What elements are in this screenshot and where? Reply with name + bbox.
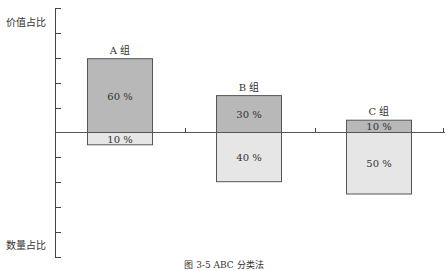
- quantity-label: 50 %: [366, 158, 391, 169]
- category-label: C 组: [369, 105, 390, 117]
- y-axis-label-top: 价值占比: [6, 14, 46, 29]
- category-label: B 组: [239, 81, 260, 93]
- value-label: 10 %: [366, 121, 391, 132]
- category-label: A 组: [109, 44, 130, 56]
- value-label: 60 %: [107, 91, 132, 102]
- quantity-label: 40 %: [236, 152, 261, 163]
- bar-group-1: B 组30 %40 %: [217, 81, 282, 182]
- bars: A 组60 %10 %B 组30 %40 %C 组10 %50 %: [88, 44, 412, 194]
- quantity-label: 10 %: [107, 134, 132, 145]
- bar-group-2: C 组10 %50 %: [347, 105, 412, 194]
- bar-group-0: A 组60 %10 %: [88, 44, 153, 145]
- figure-caption: 图 3-5 ABC 分类法: [0, 258, 448, 271]
- y-axis-label-bottom: 数量占比: [6, 237, 46, 252]
- value-label: 30 %: [236, 109, 261, 120]
